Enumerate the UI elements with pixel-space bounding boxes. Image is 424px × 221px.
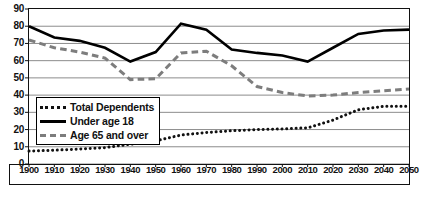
y-tick-label: 20 bbox=[2, 126, 24, 134]
solid-line-key bbox=[40, 116, 66, 126]
y-tick-label: 80 bbox=[2, 22, 24, 30]
series-line-under-age-18 bbox=[29, 24, 409, 62]
legend-item-label: Total Dependents bbox=[70, 102, 154, 113]
dotted-line-key bbox=[40, 102, 66, 112]
y-tick-label: 60 bbox=[2, 57, 24, 65]
legend-item-label: Under age 18 bbox=[70, 116, 134, 127]
y-tick-label: 50 bbox=[2, 74, 24, 82]
y-tick-label: 90 bbox=[2, 5, 24, 13]
legend-item: Age 65 and over bbox=[40, 128, 154, 142]
chart-legend: Total DependentsUnder age 18Age 65 and o… bbox=[36, 97, 160, 145]
y-tick-label: 30 bbox=[2, 108, 24, 116]
dashed-line-key bbox=[40, 130, 66, 140]
legend-item: Total Dependents bbox=[40, 100, 154, 114]
x-axis: 1900191019201930194019501960197019801990… bbox=[0, 165, 419, 181]
y-tick-label: 40 bbox=[2, 91, 24, 99]
series-line-age-65-and-over bbox=[29, 40, 409, 96]
y-tick-label: 10 bbox=[2, 143, 24, 151]
y-axis: 0102030405060708090 bbox=[0, 0, 24, 221]
legend-item: Under age 18 bbox=[40, 114, 154, 128]
y-tick-label: 70 bbox=[2, 39, 24, 47]
x-tick-label: 2050 bbox=[392, 165, 424, 175]
legend-item-label: Age 65 and over bbox=[70, 130, 148, 141]
